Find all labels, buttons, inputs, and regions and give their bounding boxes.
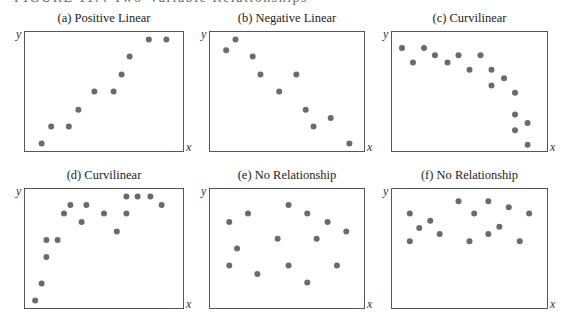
data-point [111,89,117,95]
data-point [517,238,523,244]
data-point [135,193,141,199]
data-point [146,36,152,42]
data-point [257,72,263,78]
data-point [48,124,54,130]
panel-c-curvilinear: (c) Curvilinear y x [391,31,548,152]
data-point [471,210,477,216]
data-point [254,271,260,277]
data-point [43,237,49,243]
x-axis-label: x [550,140,555,155]
data-point [83,202,89,208]
data-point [61,210,67,216]
panel-title: (e) No Relationship [209,168,365,183]
data-point [512,127,518,133]
data-point [525,142,531,148]
data-point [311,124,317,130]
data-point [407,238,413,244]
data-point [79,219,85,225]
panel-title: (c) Curvilinear [391,11,548,26]
data-point [39,281,45,287]
data-point [114,229,120,235]
data-point [456,198,462,204]
data-point [467,238,473,244]
data-point [410,59,416,65]
data-point [123,210,129,216]
panel-f-no-relationship: (f) No Relationship y x [391,188,548,309]
data-point [506,204,512,210]
data-point [488,67,494,73]
data-point [127,53,133,59]
data-point [275,236,281,242]
data-point [432,52,438,58]
data-point [512,111,518,117]
data-point [32,298,38,304]
data-point [496,224,502,230]
y-axis-label: y [201,27,206,42]
data-point [456,52,462,58]
x-axis-label: x [550,297,555,312]
data-point [223,47,229,53]
scatter-points [209,188,365,309]
y-axis-label: y [201,184,206,199]
data-point [485,198,491,204]
panel-e-no-relationship: (e) No Relationship y x [209,188,365,309]
data-point [421,45,427,51]
x-axis-label: x [186,140,191,155]
data-point [445,59,451,65]
x-axis-label: x [367,140,372,155]
scatter-points [209,31,365,152]
y-axis-label: y [16,184,21,199]
data-point [233,36,239,42]
panel-d-curvilinear: (d) Curvilinear y x [24,188,184,309]
y-axis-label: y [383,27,388,42]
data-point [91,89,97,95]
x-axis-label: x [367,297,372,312]
figure-header: FIGURE 11.4 Two-Variable Relationships [14,0,308,6]
data-point [245,210,251,216]
data-point [427,218,433,224]
scatter-points [391,188,548,309]
data-point [163,36,169,42]
data-point [467,67,473,73]
data-point [343,229,349,235]
panel-title: (d) Curvilinear [24,168,184,183]
scatter-points [391,31,548,152]
panel-title: (a) Positive Linear [24,11,184,26]
data-point [39,141,45,147]
y-axis-label: y [16,27,21,42]
data-point [55,237,61,243]
panel-title: (f) No Relationship [391,168,548,183]
data-point [101,210,107,216]
data-point [525,120,531,126]
data-point [226,219,232,225]
data-point [325,219,331,225]
data-point [276,89,282,95]
data-point [485,231,491,237]
x-axis-label: x [186,297,191,312]
panel-title: (b) Negative Linear [209,11,365,26]
data-point [67,202,73,208]
data-point [346,141,352,147]
data-point [159,202,165,208]
data-point [293,72,299,78]
data-point [512,90,518,96]
data-point [123,193,129,199]
data-point [303,107,309,113]
data-point [477,52,483,58]
data-point [501,75,507,81]
data-point [250,53,256,59]
data-point [328,115,334,121]
panel-b-negative-linear: (b) Negative Linear y x [209,31,365,152]
data-point [147,193,153,199]
data-point [119,72,125,78]
data-point [66,124,72,130]
data-point [334,262,340,268]
scatter-points [24,31,184,152]
y-axis-label: y [383,184,388,199]
data-point [226,262,232,268]
data-point [437,231,443,237]
data-point [526,210,532,216]
data-point [43,254,49,260]
data-point [407,210,413,216]
data-point [416,225,422,231]
